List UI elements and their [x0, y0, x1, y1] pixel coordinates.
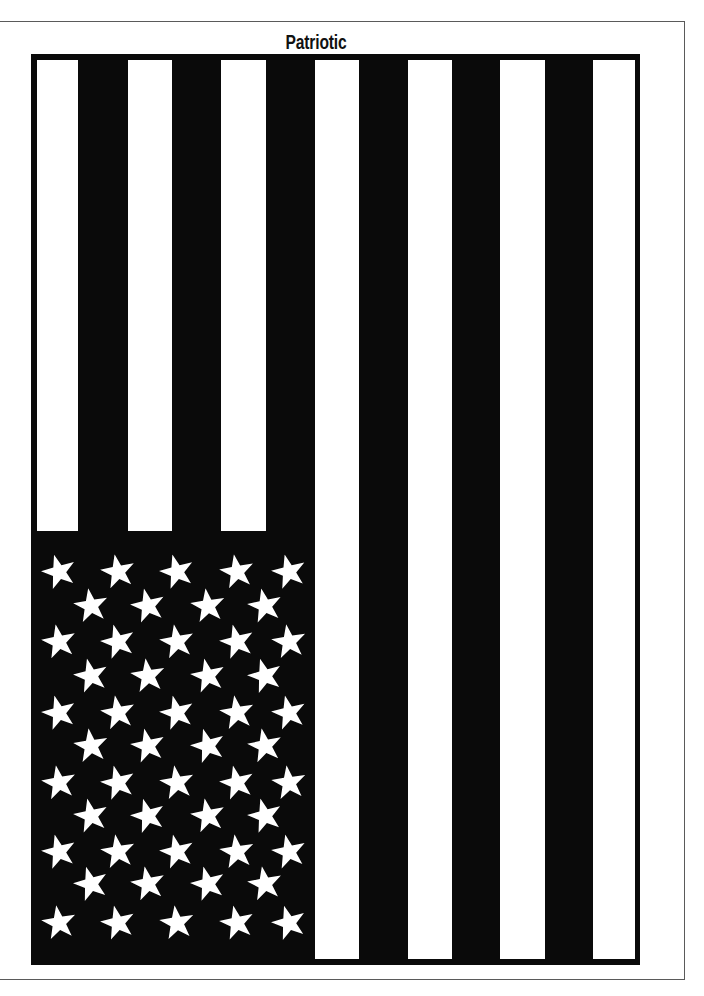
star-icon	[216, 692, 257, 733]
star-icon	[70, 795, 113, 838]
star-icon	[127, 863, 169, 905]
star-icon	[244, 863, 286, 905]
white-stripe-5	[408, 60, 452, 959]
star-icon	[217, 832, 258, 873]
star-icon	[188, 586, 229, 627]
white-stripe-4	[315, 60, 359, 959]
white-stripe-1	[37, 60, 78, 531]
star-icon	[38, 762, 80, 804]
white-stripe-7	[593, 60, 635, 959]
page-title: Patriotic	[70, 31, 563, 53]
star-icon	[187, 655, 230, 698]
white-stripe-3	[221, 60, 266, 531]
white-stripe-6	[500, 60, 545, 959]
star-icon	[71, 726, 112, 767]
star-icon	[128, 656, 169, 697]
star-icon	[157, 903, 198, 944]
star-icon	[216, 902, 259, 945]
star-icon	[38, 621, 80, 663]
star-icon	[187, 795, 229, 837]
star-icon	[127, 725, 170, 768]
white-stripe-2	[128, 60, 172, 531]
star-icon	[156, 762, 197, 803]
star-icon	[38, 902, 79, 943]
american-flag	[31, 54, 640, 965]
star-icon	[70, 585, 111, 626]
